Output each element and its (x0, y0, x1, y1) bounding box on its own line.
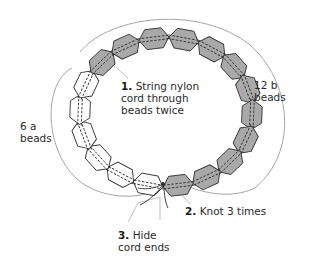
step-2-number: 2. (185, 205, 196, 217)
step-3-number: 3. (118, 229, 129, 241)
bead-b (137, 27, 171, 51)
label-a-beads: 6 a beads (20, 120, 52, 144)
step-1-number: 1. (121, 80, 132, 92)
bead-b (161, 173, 195, 197)
step-3-text: 3. Hide cord ends (118, 229, 170, 253)
leader-line-step3 (128, 197, 160, 222)
bead-a (131, 172, 166, 197)
step-1-text: 1. String nylon cord through beads twice (121, 80, 199, 116)
label-b-beads: 12 b beads (254, 79, 286, 103)
step-2-text: 2. Knot 3 times (185, 205, 266, 217)
bead-b (166, 27, 201, 52)
